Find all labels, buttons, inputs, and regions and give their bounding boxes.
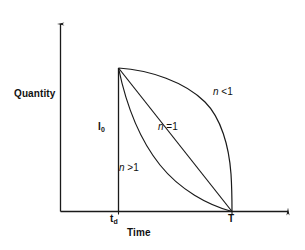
n-gt-1-relation: >1 <box>125 162 139 173</box>
I0-subscript: 0 <box>101 126 105 133</box>
x-axis-label: Time <box>127 228 151 238</box>
y-axis-label: Quantity <box>14 89 55 99</box>
n-lt-1-relation: <1 <box>219 86 233 97</box>
curve-label-n-less-than-1: n <1 <box>213 87 233 97</box>
n-eq-1-relation: =1 <box>164 121 178 132</box>
plot-canvas <box>0 0 305 250</box>
td-subscript: d <box>113 218 117 225</box>
curve-label-n-greater-than-1: n >1 <box>119 163 139 173</box>
curve-label-n-equals-1: n =1 <box>158 122 178 132</box>
initial-quantity-label: I0 <box>98 122 105 132</box>
x-tick-label-T: T <box>228 214 234 224</box>
x-tick-label-td: td <box>110 214 118 224</box>
kinetics-release-figure: Quantity Time td T I0 n <1 n =1 n >1 <box>0 0 305 250</box>
